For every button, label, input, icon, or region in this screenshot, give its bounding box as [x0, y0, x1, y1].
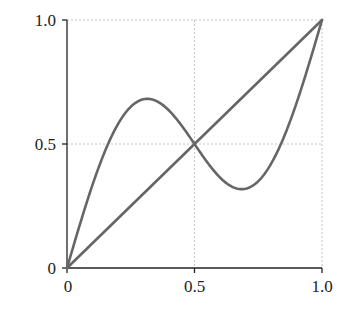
chart: 1.0 0.5 0 0 0.5 1.0	[0, 0, 352, 320]
x-tick-labels: 0 0.5 1.0	[64, 277, 333, 296]
y-tick-labels: 1.0 0.5 0	[35, 11, 56, 278]
y-tick-label-1.0: 1.0	[35, 11, 56, 30]
x-tick-label-0: 0	[64, 277, 73, 296]
y-tick-label-0: 0	[48, 259, 57, 278]
x-tick-label-1.0: 1.0	[311, 277, 332, 296]
y-tick-label-0.5: 0.5	[35, 135, 56, 154]
x-tick-label-0.5: 0.5	[184, 277, 205, 296]
